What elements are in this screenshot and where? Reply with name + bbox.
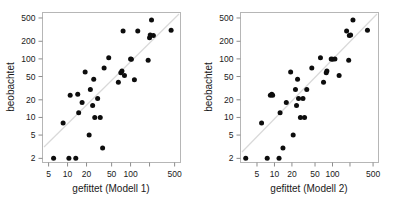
data-point [304, 87, 309, 92]
data-point [243, 156, 248, 161]
data-point [280, 146, 285, 151]
data-point [344, 28, 349, 33]
y-tick-label: 100 [219, 54, 233, 64]
data-point [321, 80, 326, 85]
panel-1-y-ticks [39, 18, 43, 158]
panel-2-x-ticklabels: 5102050100500 [255, 169, 381, 179]
data-point [75, 92, 80, 97]
data-point [278, 110, 283, 115]
y-tick-label: 200 [21, 36, 35, 46]
data-point [294, 103, 299, 108]
x-tick-label: 20 [287, 169, 297, 179]
data-point [91, 77, 96, 82]
panel-2-yaxis-title: beobachtet [203, 62, 214, 112]
data-point [149, 18, 154, 23]
data-point [300, 96, 305, 101]
data-point [332, 56, 337, 61]
data-point [73, 156, 78, 161]
data-point [100, 146, 105, 151]
data-point [61, 121, 66, 126]
panel-model-2: 25102050100200500 5102050100500 gefittet… [198, 0, 396, 206]
data-point [284, 100, 289, 105]
x-tick-label: 5 [46, 169, 51, 179]
data-point [92, 115, 97, 120]
data-point [259, 121, 264, 126]
x-tick-label: 100 [325, 169, 339, 179]
x-tick-label: 100 [123, 169, 137, 179]
x-tick-label: 10 [63, 169, 73, 179]
panel-1-reference-line [44, 14, 179, 147]
data-point [66, 156, 71, 161]
data-point [80, 100, 85, 105]
y-tick-label: 50 [224, 72, 234, 82]
data-point [291, 133, 296, 138]
panel-2-x-ticks [257, 163, 373, 167]
panel-2-xaxis-title: gefittet (Modell 2) [270, 183, 347, 194]
panel-2-frame [241, 13, 379, 163]
data-point [83, 69, 88, 74]
y-tick-label: 5 [229, 130, 234, 140]
data-point [87, 133, 92, 138]
x-tick-label: 5 [255, 169, 260, 179]
data-point [277, 156, 282, 161]
data-point [365, 28, 370, 33]
data-point [350, 18, 355, 23]
panel-2-svg: 25102050100200500 5102050100500 gefittet… [198, 0, 396, 206]
data-point [348, 33, 353, 38]
panel-1-yaxis-title: beobachtet [5, 62, 16, 112]
data-point [68, 93, 73, 98]
panel-model-1: 25102050100200500 5102050100500 gefittet… [0, 0, 198, 206]
y-tick-label: 5 [31, 130, 36, 140]
data-point [88, 87, 93, 92]
x-tick-label: 20 [82, 169, 92, 179]
data-point [293, 87, 298, 92]
x-tick-label: 10 [270, 169, 280, 179]
panel-1-y-ticklabels: 25102050100200500 [21, 13, 35, 163]
panel-1-data-points [51, 18, 174, 161]
data-point [122, 73, 127, 78]
data-point [265, 156, 270, 161]
y-tick-label: 10 [224, 112, 234, 122]
x-tick-label: 500 [168, 169, 182, 179]
y-tick-label: 500 [219, 13, 233, 23]
data-point [296, 96, 301, 101]
data-point [121, 28, 126, 33]
data-point [129, 57, 134, 62]
scatter-plot-figure: 25102050100200500 5102050100500 gefittet… [0, 0, 396, 206]
data-point [95, 96, 100, 101]
y-tick-label: 100 [21, 54, 35, 64]
panel-1-svg: 25102050100200500 5102050100500 gefittet… [0, 0, 198, 206]
data-point [106, 55, 111, 60]
data-point [132, 77, 137, 82]
data-point [76, 110, 81, 115]
data-point [346, 58, 351, 63]
data-point [146, 58, 151, 63]
data-point [151, 33, 156, 38]
panel-1-xaxis-title: gefittet (Modell 1) [72, 183, 149, 194]
panel-1-frame [43, 13, 181, 163]
panel-2-reference-line [242, 14, 377, 152]
data-point [318, 55, 323, 60]
data-point [302, 115, 307, 120]
panel-1-x-ticks [49, 163, 175, 167]
data-point [90, 103, 95, 108]
y-tick-label: 200 [219, 36, 233, 46]
data-point [324, 69, 329, 74]
panel-1-x-ticklabels: 5102050100500 [46, 169, 182, 179]
data-point [309, 65, 314, 70]
y-tick-label: 2 [229, 153, 234, 163]
data-point [119, 69, 124, 74]
data-point [337, 73, 342, 78]
x-tick-label: 500 [366, 169, 380, 179]
panel-2-y-ticklabels: 25102050100200500 [219, 13, 233, 163]
data-point [288, 69, 293, 74]
x-tick-label: 50 [107, 169, 117, 179]
data-point [270, 93, 275, 98]
y-tick-label: 500 [21, 13, 35, 23]
data-point [116, 80, 121, 85]
y-tick-label: 20 [26, 95, 36, 105]
data-point [102, 65, 107, 70]
data-point [135, 28, 140, 33]
data-point [51, 156, 56, 161]
y-tick-label: 50 [26, 72, 36, 82]
